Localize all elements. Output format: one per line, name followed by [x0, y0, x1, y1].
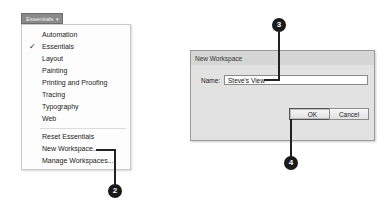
workspace-switcher-button[interactable]: Essentials▾ [21, 13, 63, 24]
menu-item-essentials[interactable]: ✓Essentials [22, 41, 130, 53]
menu-item-typography[interactable]: Typography [22, 101, 130, 113]
name-label: Name: [201, 77, 220, 84]
menu-item-label: Painting [42, 67, 67, 74]
menu-item-web[interactable]: Web [22, 113, 130, 125]
menu-item-label: Manage Workspaces... [42, 157, 113, 164]
callout-3-badge: 3 [272, 18, 286, 32]
name-input[interactable]: Steve's View [224, 75, 368, 85]
menu-item-label: Layout [42, 55, 63, 62]
menu-item-painting[interactable]: Painting [22, 65, 130, 77]
callout-4-leader-v [290, 119, 292, 157]
callout-2-leader-v [114, 149, 116, 185]
menu-item-label: New Workspace... [42, 145, 99, 152]
menu-item-label: Tracing [42, 91, 65, 98]
menu-item-tracing[interactable]: Tracing [22, 89, 130, 101]
callout-2-leader-h [96, 149, 116, 151]
chevron-down-icon: ▾ [56, 16, 59, 22]
menu-item-layout[interactable]: Layout [22, 53, 130, 65]
callout-3-leader-h [264, 79, 280, 81]
menu-item-automation[interactable]: Automation [22, 29, 130, 41]
menu-item-label: Web [42, 115, 56, 122]
checkmark-icon: ✓ [29, 41, 36, 53]
menu-item-label: Typography [42, 103, 79, 110]
menu-item-label: Printing and Proofing [42, 79, 107, 86]
menu-item-label: Automation [42, 31, 77, 38]
cancel-button[interactable]: Cancel [329, 108, 369, 120]
callout-4-badge: 4 [284, 156, 298, 170]
new-workspace-dialog: New Workspace Name: Steve's View OK Canc… [190, 50, 375, 141]
menu-item-printing-proofing[interactable]: Printing and Proofing [22, 77, 130, 89]
menu-item-label: Reset Essentials [42, 133, 94, 140]
menu-item-reset-essentials[interactable]: Reset Essentials [22, 131, 130, 143]
workspace-switcher-label: Essentials [26, 16, 53, 22]
callout-3-leader-v [278, 32, 280, 80]
menu-separator [40, 128, 126, 129]
dialog-title: New Workspace [195, 55, 242, 62]
menu-item-label: Essentials [42, 43, 74, 50]
callout-2-badge: 2 [108, 184, 122, 198]
